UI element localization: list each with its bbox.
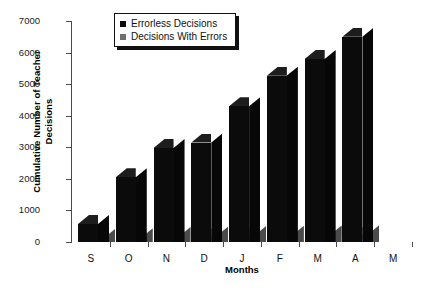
bar-front-face xyxy=(191,143,211,242)
y-tick-label: 6000 xyxy=(0,47,40,58)
legend-swatch-icon-errorless xyxy=(120,21,126,27)
y-tick xyxy=(66,179,71,180)
x-tick-label: O xyxy=(118,253,140,264)
y-axis-title-line1: Cumulative Number of Teacher xyxy=(31,50,42,193)
bar-top-face xyxy=(342,28,362,37)
bar-front-face xyxy=(154,148,174,242)
y-tick-label: 1000 xyxy=(0,204,40,215)
x-tick xyxy=(110,242,111,247)
bar-errorless-decisions xyxy=(305,50,325,242)
y-tick xyxy=(66,210,71,211)
y-axis-line xyxy=(71,21,72,243)
bar-side-face xyxy=(362,28,373,242)
x-tick xyxy=(374,242,375,247)
bar-errorless-decisions xyxy=(267,67,287,242)
y-tick xyxy=(66,147,71,148)
legend-item-errorless: Errorless Decisions xyxy=(120,17,227,30)
bar-top-face xyxy=(116,168,136,177)
bar-errorless-decisions xyxy=(116,168,136,242)
x-tick-label: M xyxy=(307,253,329,264)
bar-front-face xyxy=(78,224,98,242)
x-axis-title: Months xyxy=(72,264,412,275)
bar-side-face xyxy=(211,134,222,242)
y-tick-label: 3000 xyxy=(0,141,40,152)
bar-top-face xyxy=(154,139,174,148)
y-axis-title-line2: Decisions xyxy=(42,99,53,145)
y-tick-label: 5000 xyxy=(0,78,40,89)
bar-errorless-decisions xyxy=(191,134,211,242)
bar-top-face xyxy=(305,50,325,59)
x-tick-label: A xyxy=(344,253,366,264)
y-tick xyxy=(66,84,71,85)
x-tick xyxy=(223,242,224,247)
x-tick xyxy=(336,242,337,247)
bar-side-face xyxy=(249,97,260,242)
x-tick xyxy=(185,242,186,247)
bar-side-face xyxy=(136,168,147,242)
y-tick xyxy=(66,116,71,117)
bar-side-face xyxy=(174,139,185,242)
bar-errorless-decisions xyxy=(78,215,98,242)
bar-top-face xyxy=(191,134,211,143)
bar-front-face xyxy=(305,59,325,242)
bar-front-face xyxy=(267,76,287,242)
bar-errorless-decisions xyxy=(154,139,174,242)
bar-side-face xyxy=(287,67,298,242)
bar-top-face xyxy=(229,97,249,106)
bar-front-face xyxy=(229,106,249,242)
x-tick-label: M xyxy=(382,253,404,264)
x-tick xyxy=(261,242,262,247)
legend-item-with-errors: Decisions With Errors xyxy=(120,30,227,43)
y-tick xyxy=(66,53,71,54)
plot-area: 01000200030004000500060007000 SONDJFMAM xyxy=(72,21,412,242)
y-tick-label: 4000 xyxy=(0,110,40,121)
bar-top-face xyxy=(78,215,98,224)
y-tick-label: 0 xyxy=(0,236,40,247)
bar-side-face xyxy=(98,215,109,242)
x-tick-label: J xyxy=(231,253,253,264)
x-tick-label: N xyxy=(155,253,177,264)
x-tick-label: D xyxy=(193,253,215,264)
bar-front-face xyxy=(116,177,136,242)
bar-errorless-decisions xyxy=(229,97,249,242)
x-tick xyxy=(412,242,413,247)
y-tick-label: 7000 xyxy=(0,15,40,26)
y-tick xyxy=(66,242,71,243)
legend-label-errorless: Errorless Decisions xyxy=(131,18,217,29)
x-tick xyxy=(148,242,149,247)
y-tick xyxy=(66,21,71,22)
legend-label-with-errors: Decisions With Errors xyxy=(131,31,227,42)
bar-front-face xyxy=(342,37,362,242)
bar-top-face xyxy=(267,67,287,76)
chart-container: Cumulative Number of Teacher Decisions 0… xyxy=(0,0,435,291)
x-tick-label: S xyxy=(80,253,102,264)
bar-side-face xyxy=(325,50,336,242)
legend-swatch-icon-with-errors xyxy=(120,34,126,40)
bar-errorless-decisions xyxy=(342,28,362,242)
x-tick xyxy=(299,242,300,247)
y-tick-label: 2000 xyxy=(0,173,40,184)
chart-legend: Errorless Decisions Decisions With Error… xyxy=(114,13,236,47)
x-tick-label: F xyxy=(269,253,291,264)
